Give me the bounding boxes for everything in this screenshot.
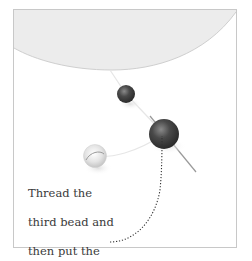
caption-line: then put the xyxy=(28,244,138,259)
caption-line: third bead and xyxy=(28,215,138,230)
second-bead xyxy=(149,119,179,149)
caption-line: Thread the xyxy=(28,186,138,201)
third-bead xyxy=(84,145,107,168)
first-bead xyxy=(117,85,135,103)
instruction-caption: Thread the third bead and then put the n… xyxy=(28,171,138,261)
